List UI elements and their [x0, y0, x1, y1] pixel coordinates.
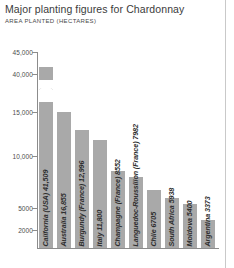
bar-item[interactable]: Australia 16,855: [57, 34, 71, 248]
bar-label: Moldova 5400: [183, 232, 197, 246]
bar-label: Italy 11,800: [93, 232, 107, 246]
bar-series: California (USA) 41,509Australia 16,855B…: [38, 34, 219, 248]
y-axis-tick-label: 10,000: [13, 153, 33, 160]
bar-label-text: Champagne (France) 8552: [114, 159, 122, 246]
chart-container: Major planting figures for Chardonnay AR…: [0, 0, 234, 268]
y-axis-tick-label: 2000: [18, 227, 33, 234]
y-axis-tick-label: 5000: [18, 205, 33, 212]
bar-label: South Africa 5938: [165, 232, 179, 246]
bar-item[interactable]: Italy 11,800: [93, 34, 107, 248]
bar-label: Argentina 3373: [201, 232, 215, 246]
bar-label-text: Italy 11,800: [96, 209, 104, 246]
y-axis-tick-label: 45,000: [13, 49, 33, 56]
bar-label-text: South Africa 5938: [168, 187, 176, 246]
page-edge-line: [225, 0, 226, 268]
chart-subtitle: AREA PLANTED (HECTARES): [5, 17, 96, 25]
bar-label-text: Australia 16,855: [60, 193, 67, 246]
bar-item[interactable]: Champagne (France) 8552: [111, 34, 125, 248]
bar-label-text: Argentina 3373: [204, 196, 212, 246]
bar-item[interactable]: Argentina 3373: [201, 34, 215, 248]
y-axis-tick-label: 40,000: [13, 71, 33, 78]
bar-label: Burgundy (France) 12,996: [75, 232, 89, 246]
bar-item[interactable]: South Africa 5938: [165, 34, 179, 248]
axis-break-chevron: [39, 84, 53, 94]
bar-label: Languedoc-Roussillon (France) 7982: [129, 232, 143, 246]
bar-label: Australia 16,855: [57, 232, 71, 246]
x-axis-line: [37, 248, 219, 249]
bar-item[interactable]: Burgundy (France) 12,996: [75, 34, 89, 248]
bar-label: Chile 6705: [147, 232, 161, 246]
bar-item[interactable]: California (USA) 41,509: [39, 34, 53, 248]
bar-label-text: Moldova 5400: [186, 200, 194, 246]
bar-label-text: Languedoc-Roussillon (France) 7982: [132, 124, 140, 246]
plot-area: California (USA) 41,509Australia 16,855B…: [37, 34, 219, 249]
bar-label-text: Chile 6705: [150, 211, 158, 246]
bar-label-text: Burgundy (France) 12,996: [78, 160, 86, 246]
bar-label: Champagne (France) 8552: [111, 232, 125, 246]
bar-item[interactable]: Chile 6705: [147, 34, 161, 248]
y-axis-tick-label: 15,000: [13, 109, 33, 116]
bar-label-text: California (USA) 41,509: [42, 169, 50, 246]
y-axis-tick-labels: 45,00040,00015,00010,00050002000: [0, 34, 33, 249]
bar-item[interactable]: Languedoc-Roussillon (France) 7982: [129, 34, 143, 248]
bar-label: California (USA) 41,509: [39, 232, 53, 246]
bar-item[interactable]: Moldova 5400: [183, 34, 197, 248]
chart-title: Major planting figures for Chardonnay: [5, 3, 215, 15]
